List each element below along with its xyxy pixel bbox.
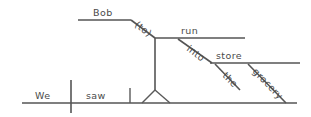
sentence-diagram-canvas: We saw Bob (to) run into store the groce… [0,0,311,117]
word-run: run [181,25,198,36]
pedestal-right-leg [155,90,170,103]
sentence-diagram-svg: We saw Bob (to) run into store the groce… [0,0,311,117]
word-bob: Bob [93,7,113,18]
word-we: We [35,90,50,101]
word-store: store [216,50,242,61]
word-grocery: grocery [251,66,286,102]
pedestal-left-leg [142,90,155,103]
word-saw: saw [86,90,106,101]
word-into: into [185,43,207,64]
